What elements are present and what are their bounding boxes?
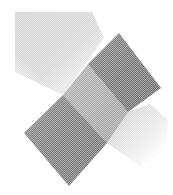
halftone-squares-graphic — [0, 0, 173, 195]
logo-canvas — [0, 0, 173, 195]
